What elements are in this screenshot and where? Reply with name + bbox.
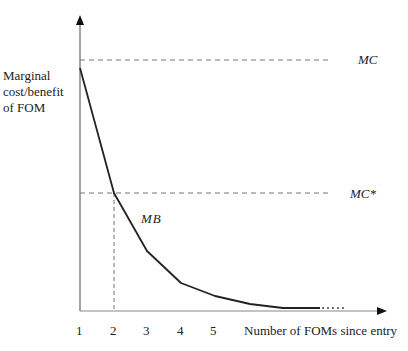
y-axis-arrow-icon — [76, 15, 84, 25]
mb-curve — [80, 68, 320, 308]
y-axis-label: Marginal cost/benefit of FOM — [3, 68, 64, 116]
mb-label: MB — [141, 211, 162, 226]
x-axis-arrow-icon — [377, 307, 387, 315]
x-tick-3: 3 — [143, 323, 150, 338]
x-tick-4: 4 — [177, 323, 184, 338]
x-axis-label: Number of FOMs since entry — [244, 323, 397, 338]
chart-canvas — [0, 0, 408, 351]
x-tick-1: 1 — [76, 323, 83, 338]
mc-label: MC — [358, 52, 378, 67]
x-tick-5: 5 — [210, 323, 217, 338]
x-tick-2: 2 — [110, 323, 117, 338]
mc-star-label: MC* — [350, 186, 376, 201]
